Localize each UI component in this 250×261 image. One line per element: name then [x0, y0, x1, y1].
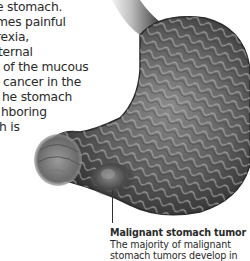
- body-text-line: cancer in the: [3, 75, 140, 90]
- body-text-line: h is: [0, 120, 140, 135]
- caption-title: Malignant stomach tumor: [110, 227, 250, 238]
- tumor-caption: Malignant stomach tumor The majority of …: [110, 227, 250, 261]
- caption-text-line: The majority of malignant: [110, 239, 250, 250]
- caption-text-line: stomach tumors develop in: [110, 250, 250, 261]
- body-text-line: of the mucous: [3, 60, 140, 75]
- body-text-line: mes painful: [0, 15, 140, 30]
- body-text-line: he stomach: [2, 90, 140, 105]
- body-text-line: rexia,: [0, 30, 140, 45]
- body-text-line: hboring: [1, 105, 140, 120]
- body-text: e stomach. mes painful rexia, ternal of …: [0, 0, 140, 135]
- callout-leader-line: [112, 190, 113, 223]
- body-text-line: ternal: [0, 45, 140, 60]
- body-text-line: e stomach.: [0, 0, 140, 15]
